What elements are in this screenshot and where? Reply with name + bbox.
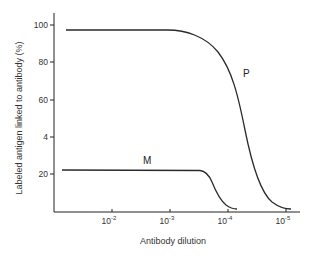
x-tick-label: 10-3	[160, 215, 175, 226]
curve-p	[66, 30, 291, 209]
curve-m	[62, 170, 237, 209]
y-tick-label: 4	[43, 132, 48, 142]
y-tick-label: 60	[39, 95, 49, 105]
y-ticks: 100 80 60 4 20	[34, 20, 54, 179]
y-tick-label: 80	[39, 57, 49, 67]
x-tick-label: 10-4	[218, 215, 233, 226]
x-tick-label: 10-2	[102, 215, 117, 226]
y-axis-title: Labeled antigen linked to antibody (%)	[14, 41, 24, 194]
y-tick-label: 100	[34, 20, 48, 30]
curve-label-p: P	[243, 68, 250, 79]
chart: 100 80 60 4 20 10-2 10-3 10-4 10-5 Antib…	[0, 0, 309, 261]
curve-label-m: M	[143, 155, 151, 166]
axes	[54, 13, 300, 212]
x-axis-title: Antibody dilution	[140, 236, 206, 246]
y-tick-label: 20	[39, 169, 49, 179]
x-tick-label: 10-5	[276, 215, 291, 226]
